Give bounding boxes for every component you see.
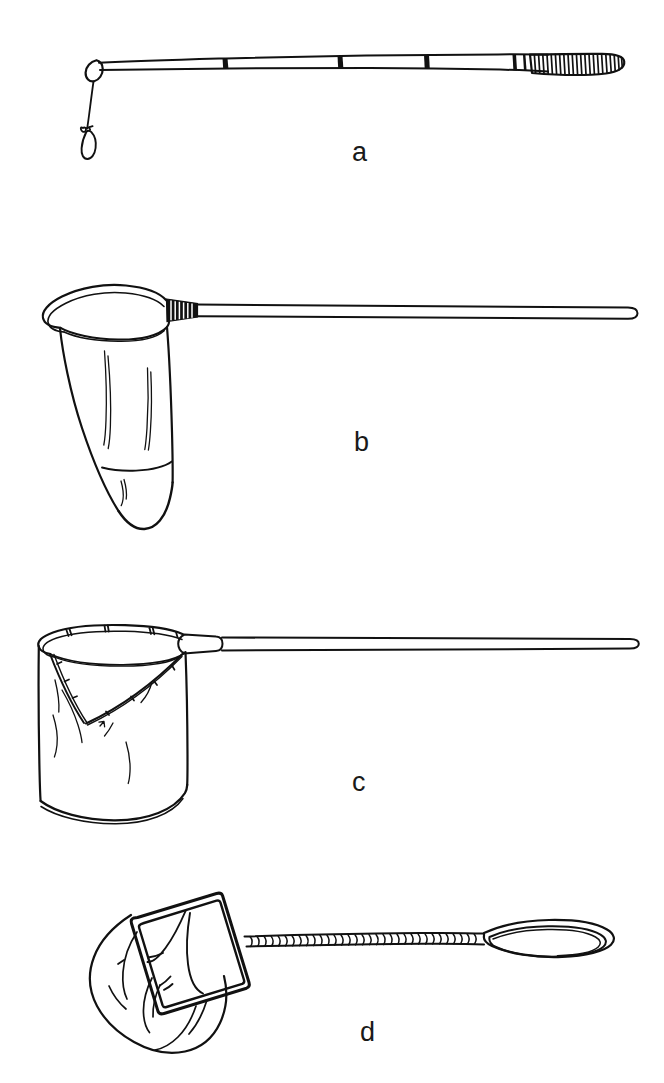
grip-collar-band-2 — [523, 55, 527, 71]
hook-bend — [82, 131, 96, 159]
panel-c-flat-bottom-scoop-net — [38, 625, 638, 824]
bag-creases-b — [104, 351, 152, 506]
frame-outer-d — [131, 893, 249, 1014]
bag-bottom-seam-b — [102, 462, 172, 471]
figure-label-d: d — [360, 1019, 375, 1046]
bag-bottom-c — [41, 785, 188, 820]
ferrule-band-3 — [424, 55, 430, 69]
fishing-line — [87, 82, 93, 129]
figure-plate: a b c d — [0, 0, 664, 1083]
panel-b-conical-dip-net — [43, 285, 638, 529]
bag-left-seam-b — [60, 329, 119, 512]
grip-collar-band-1 — [513, 55, 518, 71]
figure-label-c: c — [352, 769, 366, 796]
pole-b — [196, 305, 638, 319]
panel-d-rectangular-frame-net — [90, 893, 614, 1053]
ferrule-band-1 — [223, 58, 229, 68]
bag-left-wall-c — [39, 646, 41, 801]
v-seam-right-c — [86, 653, 184, 724]
bag-right-seam-b — [167, 327, 173, 483]
rod-lower-edge — [100, 68, 548, 72]
hoop-outer-c — [38, 625, 183, 654]
bag-right-wall-c — [186, 652, 188, 785]
hoop-inner-c — [43, 631, 182, 657]
hoop-inner-b — [48, 292, 164, 332]
ferrule-band-2 — [338, 56, 344, 68]
pole-c — [222, 638, 639, 651]
rod-upper-edge — [99, 54, 548, 62]
figure-label-b: b — [354, 429, 369, 456]
figure-artwork — [0, 0, 664, 1083]
net-bag-d — [90, 915, 226, 1053]
figure-label-a: a — [352, 139, 367, 166]
collar-ferrule-c — [178, 635, 222, 654]
v-seam-left-c — [50, 654, 84, 723]
rope-handle-lower-d — [247, 944, 485, 947]
grip-hatching — [534, 54, 622, 75]
